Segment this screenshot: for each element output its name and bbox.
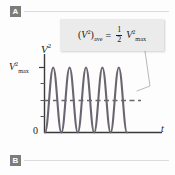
x-axis-label: t (161, 124, 164, 134)
y-axis-label-var: V (41, 43, 48, 55)
equation-fraction-one-half: 1 2 (116, 26, 122, 44)
callout-leader-line (137, 51, 150, 91)
equation-lhs: (V2)ave (78, 28, 102, 42)
y-tick-label-exponent: 2 (15, 60, 18, 67)
panel-rule-b (24, 160, 169, 161)
origin-label: 0 (33, 126, 38, 136)
x-axis-label-var: t (161, 123, 164, 134)
panel-rule-a (24, 11, 169, 12)
y-tick-label-max: V2max (9, 61, 29, 75)
callout-equation: (V2)ave = 1 2 V2max (60, 19, 164, 51)
callout-box: (V2)ave = 1 2 V2max (60, 19, 164, 51)
fraction-numerator: 1 (116, 26, 122, 34)
figure-container: A V2 V2max (0, 0, 175, 175)
y-tick-label-subscript: max (18, 67, 29, 74)
plot-area: V2 V2max 0 t (V2)ave = 1 2 V2max (0, 14, 175, 152)
panel-header-b: B (0, 153, 175, 167)
panel-badge-b: B (10, 155, 21, 166)
equation-rhs-exponent: 2 (132, 28, 135, 35)
equation-lhs-exponent: 2 (87, 28, 90, 35)
equation-rhs-subscript: max (135, 35, 146, 42)
fraction-denominator: 2 (116, 36, 122, 44)
y-axis-label-exponent: 2 (48, 42, 51, 49)
equation-rhs: V2max (126, 28, 146, 42)
v-squared-curve (45, 68, 127, 133)
equation-equals: = (105, 30, 111, 41)
y-axis-label: V2 (41, 43, 51, 55)
equation-lhs-subscript: ave (94, 35, 103, 42)
